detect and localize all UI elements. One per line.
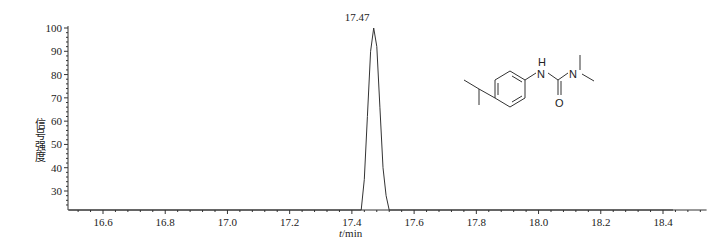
- x-tick-label: 17.0: [218, 216, 238, 228]
- chemical-structure: [464, 55, 594, 107]
- x-tick-label: 18.4: [653, 216, 673, 228]
- chromatogram-chart: 30405060708090100 16.616.817.017.217.417…: [0, 0, 707, 245]
- x-tick-label: 18.0: [529, 216, 549, 228]
- atom-h: H: [538, 56, 546, 68]
- y-tick-label: 90: [51, 45, 63, 57]
- y-tick-label: 30: [51, 185, 63, 197]
- y-tick-label: 70: [51, 92, 63, 104]
- y-axis-title: 信号强度: [34, 118, 47, 163]
- x-tick-label: 16.6: [93, 216, 113, 228]
- peak-label: 17.47: [345, 11, 370, 23]
- y-tick-label: 100: [46, 22, 63, 34]
- atom-n-dimethyl: N: [569, 68, 577, 80]
- y-tick-label: 50: [51, 138, 63, 150]
- y-ticks: 30405060708090100: [46, 22, 69, 205]
- x-tick-label: 17.8: [467, 216, 487, 228]
- x-tick-label: 17.2: [280, 216, 299, 228]
- x-tick-label: 18.2: [591, 216, 610, 228]
- x-tick-label: 16.8: [156, 216, 176, 228]
- x-ticks: 16.616.817.017.217.417.617.818.018.218.4: [78, 210, 700, 228]
- x-axis-title: t/min: [339, 227, 363, 239]
- chromatogram-trace: [69, 28, 707, 210]
- x-tick-label: 17.6: [404, 216, 424, 228]
- atom-o: O: [555, 97, 564, 109]
- y-tick-label: 80: [51, 69, 63, 81]
- y-tick-label: 60: [51, 115, 63, 127]
- y-tick-label: 40: [51, 162, 63, 174]
- atom-n-amide: N: [537, 68, 545, 80]
